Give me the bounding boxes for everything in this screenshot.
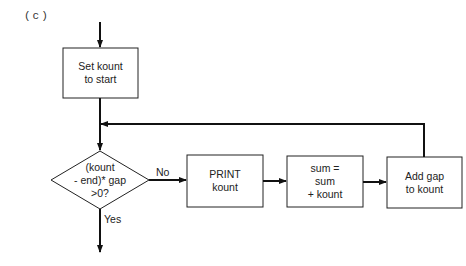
- add-gap-line-1: Add gap: [405, 170, 444, 183]
- print-kount-line-1: PRINT: [209, 168, 241, 181]
- loop-back-arrow: [101, 124, 424, 157]
- decision-line-3: >0?: [91, 187, 109, 200]
- sum-update-line-3: + kount: [308, 188, 343, 201]
- sum-update-line-2: sum: [315, 175, 335, 188]
- set-kount-line-2: to start: [84, 73, 116, 86]
- print-kount-line-2: kount: [212, 181, 238, 194]
- print-kount-text: PRINT kount: [187, 155, 263, 207]
- flowchart-canvas: [0, 0, 466, 266]
- decision-line-2: - end)* gap: [74, 174, 126, 187]
- add-gap-text: Add gap to kount: [387, 157, 462, 208]
- no-label: No: [156, 166, 169, 178]
- yes-label: Yes: [104, 213, 121, 225]
- set-kount-text: Set kount to start: [63, 48, 138, 98]
- decision-text: (kount - end)* gap >0?: [60, 156, 140, 204]
- decision-line-1: (kount: [85, 161, 114, 174]
- add-gap-line-2: to kount: [406, 183, 443, 196]
- sum-update-text: sum = sum + kount: [287, 156, 363, 207]
- sum-update-line-1: sum =: [311, 162, 340, 175]
- set-kount-line-1: Set kount: [78, 60, 122, 73]
